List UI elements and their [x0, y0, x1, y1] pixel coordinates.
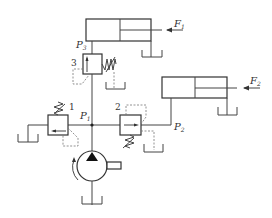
- valve-1-spring-icon: [54, 102, 63, 115]
- valve-3-spring-icon: [102, 59, 116, 70]
- valve-2-number: 2: [115, 102, 121, 112]
- cylinder-1: [86, 19, 162, 57]
- pump-icon: [72, 151, 121, 205]
- pressure-p2-label: P2: [173, 121, 185, 133]
- valve-2: [120, 105, 163, 152]
- valve-3-number: 3: [71, 58, 77, 68]
- junction-p1: [90, 123, 93, 126]
- force-f2-label: F2: [249, 75, 261, 87]
- pressure-p3-label: P3: [75, 39, 87, 51]
- cylinder-2: [162, 77, 237, 115]
- hydraulic-circuit-diagram: F1 P3 3 F2 P2 P1: [0, 0, 272, 218]
- force-f1-label: F1: [173, 18, 185, 30]
- pressure-p1-label: P1: [79, 110, 91, 122]
- valve-1-number: 1: [69, 102, 75, 112]
- valve-3: [73, 54, 125, 89]
